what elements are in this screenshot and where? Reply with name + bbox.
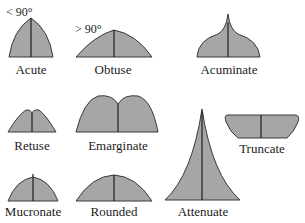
emarginate-outline: [76, 96, 158, 132]
truncate-label: Truncate: [239, 141, 285, 156]
attenuate-label: Attenuate: [178, 204, 229, 219]
leaf-apex-diagram: < 90° Acute > 90° Obtuse Acuminate Retus…: [0, 0, 305, 223]
obtuse-shape: > 90° Obtuse: [75, 22, 152, 77]
mucronate-label: Mucronate: [5, 204, 62, 219]
acute-label: Acute: [15, 62, 46, 77]
rounded-label: Rounded: [91, 204, 138, 219]
retuse-shape: Retuse: [8, 110, 56, 153]
rounded-shape: Rounded: [76, 175, 152, 219]
retuse-label: Retuse: [14, 138, 50, 153]
emarginate-label: Emarginate: [88, 138, 148, 153]
truncate-outline: [225, 115, 298, 138]
acuminate-label: Acuminate: [200, 62, 257, 77]
acute-angle-note: < 90°: [6, 5, 33, 19]
acute-shape: < 90° Acute: [6, 5, 53, 77]
emarginate-shape: Emarginate: [76, 96, 158, 153]
mucronate-shape: Mucronate: [5, 174, 62, 219]
truncate-shape: Truncate: [225, 115, 298, 156]
obtuse-angle-note: > 90°: [75, 22, 102, 36]
acuminate-shape: Acuminate: [197, 14, 260, 77]
obtuse-label: Obtuse: [95, 62, 132, 77]
